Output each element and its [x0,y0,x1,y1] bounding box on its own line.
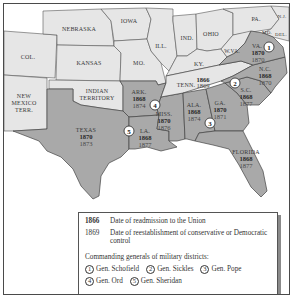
label-tenn: TENN. [177,82,196,88]
ala-restored: 1874 [187,115,201,122]
legend-generals-list: 1 Gen. Schofield 2 Gen. Sickles 3 Gen. P… [85,265,271,286]
la-readmitted: 1868 [138,134,152,141]
svg-text:2: 2 [233,80,237,88]
label-md: MD. [262,30,272,35]
legend-restoration-year: 1869 [85,229,105,246]
nc-readmitted: 1868 [258,72,272,79]
miss-restored: 1876 [157,124,171,131]
general-name: Gen. Pope [211,265,241,274]
district-marker-3: 3 [205,118,215,128]
legend-restoration-text: Date of reestablishment of conservative … [110,229,271,246]
miss-readmitted: 1870 [157,117,171,124]
legend-generals-title: Commanding generals of military district… [85,253,271,262]
label-kansas: KANSAS [76,60,101,66]
florida-readmitted: 1868 [239,155,253,162]
label-indian-territory-1: INDIAN [86,88,109,94]
general-name: Gen. Sickles [157,265,193,274]
texas-readmitted: 1870 [79,133,93,140]
legend-general-2: 2 Gen. Sickles [146,265,193,274]
district-badge-icon: 2 [146,265,155,274]
district-marker-1: 1 [264,42,274,52]
label-ohio: OHIO [203,31,219,37]
label-nm-3: TERR. [15,107,33,113]
label-ill: ILL. [155,43,167,49]
legend-restoration-row: 1869 Date of reestablishment of conserva… [85,229,271,246]
label-col: COL. [21,54,36,60]
label-pa: PA. [251,16,261,22]
label-mo: MO. [133,60,145,66]
state-florida [195,131,267,197]
legend-readmission-year: 1866 [85,217,105,226]
label-ind: IND. [181,35,194,41]
legend-readmission-row: 1866 Date of readmission to the Union [85,217,271,226]
va-readmitted: 1870 [251,49,265,56]
legend-general-1: 1 Gen. Schofield [85,265,139,274]
label-ky: KY. [194,61,204,67]
district-marker-4: 4 [150,100,160,110]
district-badge-icon: 1 [85,265,94,274]
legend-readmission-text: Date of readmission to the Union [110,217,206,226]
ala-readmitted: 1868 [187,108,201,115]
svg-text:1: 1 [267,44,271,52]
la-restored: 1877 [138,141,152,148]
texas-restored: 1873 [79,140,93,147]
district-badge-icon: 5 [130,277,139,286]
general-name: Gen. Ord [96,277,123,286]
label-nebraska: NEBRASKA [62,26,96,32]
district-badge-icon: 3 [200,265,209,274]
general-name: Gen. Schofield [96,265,139,274]
district-marker-2: 2 [230,78,240,88]
district-marker-5: 5 [124,126,134,136]
label-indian-territory-2: TERRITORY [79,95,114,101]
label-del: DEL. [275,32,287,37]
svg-text:4: 4 [153,102,157,110]
legend-general-3: 3 Gen. Pope [200,265,241,274]
label-nj: N.J. [278,14,287,19]
florida-restored: 1877 [239,162,253,169]
sc-restored: 1877 [239,100,253,107]
ga-restored: 1871 [213,113,226,120]
label-nm-1: NEW [17,93,31,99]
legend-general-4: 4 Gen. Ord [85,277,123,286]
label-wva: W.VA. [224,48,240,54]
map-frame: COL. NEBRASKA KANSAS IOWA MO. ILL. IND. … [3,3,290,295]
sc-readmitted: 1868 [239,93,253,100]
ark-restored: 1874 [132,102,146,109]
nc-restored: 1870 [258,79,272,86]
district-badge-icon: 4 [85,277,94,286]
label-nm-2: MEXICO [12,100,37,106]
general-name: Gen. Sheridan [141,277,182,286]
va-restored: 1870 [251,56,265,63]
svg-text:3: 3 [208,120,212,128]
map-legend: 1866 Date of readmission to the Union 18… [78,212,278,295]
ark-readmitted: 1868 [132,95,146,102]
label-iowa: IOWA [121,18,138,24]
tenn-restored: 1869 [196,82,210,89]
svg-text:5: 5 [127,128,131,136]
legend-general-5: 5 Gen. Sheridan [130,277,182,286]
ga-readmitted: 1870 [213,106,227,113]
